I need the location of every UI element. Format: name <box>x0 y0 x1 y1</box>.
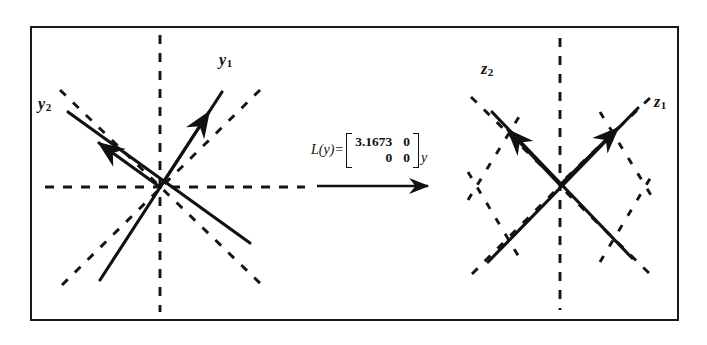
matrix-cell-1-0: 0 <box>355 150 392 166</box>
y1-arrow <box>160 112 209 187</box>
matrix-cell-1-1: 0 <box>403 150 410 166</box>
label-z1-sub: 1 <box>661 99 667 111</box>
formula-operand: y <box>421 150 427 168</box>
right-chevron-lower-right <box>600 172 654 262</box>
right-vectors <box>488 108 638 262</box>
label-z2: z2 <box>481 61 494 78</box>
label-y2-base: y <box>38 95 45 112</box>
formula-function-label: L(y) <box>311 142 334 158</box>
transformation-formula: L(y) = 3.1673 0 0 0 y <box>311 133 427 168</box>
label-y1: y1 <box>219 52 232 69</box>
left-dashed-axes <box>45 35 305 312</box>
label-y1-sub: 1 <box>227 57 233 69</box>
right-chevron-upper-right <box>600 112 654 200</box>
label-y2-sub: 2 <box>46 101 52 113</box>
formula-matrix: 3.1673 0 0 0 <box>346 133 419 168</box>
label-z2-base: z <box>481 60 487 77</box>
label-y1-base: y <box>219 51 226 68</box>
right-chevron-upper-left <box>468 112 522 200</box>
formula-equals: = <box>335 142 343 158</box>
diagram-canvas <box>0 0 707 345</box>
right-chevron-lower-left <box>468 172 522 262</box>
z1-arrow <box>560 128 618 185</box>
matrix-cell-0-0: 3.1673 <box>355 134 392 150</box>
right-ray-sw <box>470 192 554 276</box>
z2-arrow <box>508 130 560 185</box>
right-dashed-axes <box>468 38 654 310</box>
y2-arrow <box>99 143 160 187</box>
label-z1-base: z <box>654 93 660 110</box>
label-y2: y2 <box>38 96 51 113</box>
label-z2-sub: 2 <box>488 66 494 78</box>
matrix-cell-0-1: 0 <box>403 134 410 150</box>
label-z1: z1 <box>654 94 667 111</box>
